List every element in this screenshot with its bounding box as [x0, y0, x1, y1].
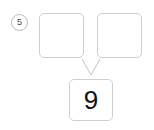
connector-line-left: [82, 59, 91, 75]
bond-total-box[interactable]: 9: [69, 79, 113, 121]
bond-part-left-box[interactable]: [39, 13, 84, 58]
bond-part-right-box[interactable]: [97, 13, 142, 58]
number-bond-problem: 5 9: [0, 0, 154, 130]
bond-total-value: 9: [84, 87, 98, 113]
problem-number-badge: 5: [11, 14, 28, 31]
problem-number-label: 5: [17, 18, 22, 27]
connector-line-right: [91, 59, 100, 75]
